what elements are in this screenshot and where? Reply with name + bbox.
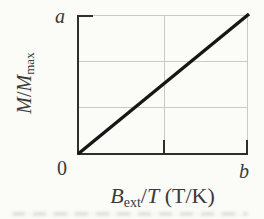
x-max-tick-label: b: [234, 161, 254, 181]
plot-area: [77, 15, 248, 155]
y-axis-label-M2: M: [13, 75, 35, 92]
x-axis-label-subscript: ext: [124, 195, 141, 210]
y-axis-label-M1: M: [13, 97, 35, 114]
origin-tick-label: 0: [52, 158, 72, 178]
data-line-canvas: [79, 15, 248, 153]
x-axis-label-B: B: [110, 183, 123, 208]
y-axis-label-subscript: max: [22, 52, 37, 74]
y-axis-label-slash: /: [13, 91, 35, 97]
x-axis-label-units: (T/K): [159, 183, 215, 208]
y-max-tick-label: a: [50, 6, 70, 26]
x-axis-label-T: T: [147, 183, 159, 208]
scan-artifact: [12, 212, 248, 216]
linear-magnetization-figure: M/Mmax a 0 b Bext/T (T/K): [0, 0, 264, 219]
linear-data-line: [78, 14, 249, 154]
x-axis-label: Bext/T (T/K): [70, 184, 255, 208]
y-axis-label: M/Mmax: [14, 52, 34, 113]
